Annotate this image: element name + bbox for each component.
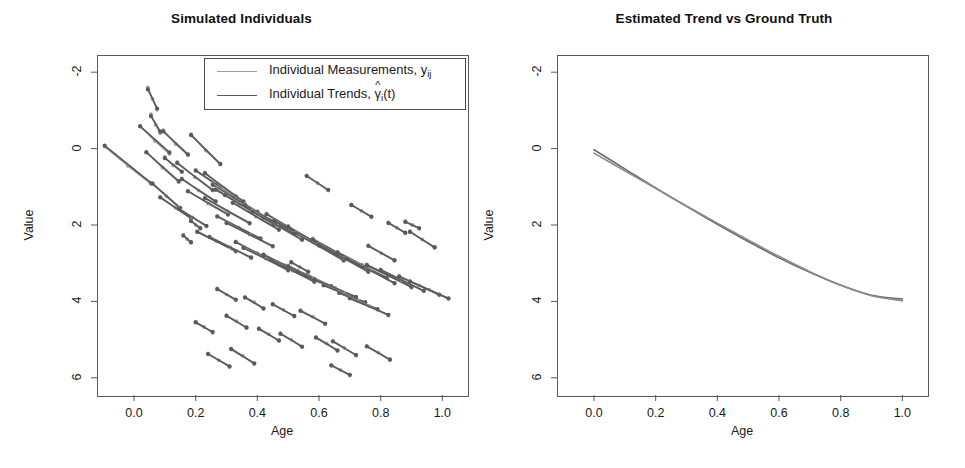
legend-sub-measurements: ij bbox=[427, 68, 431, 79]
right-x-tick-2: 0.4 bbox=[697, 406, 737, 420]
figure-canvas: Simulated Individuals 0.00.20.40.60.81.0… bbox=[0, 0, 965, 468]
panel-estimated-vs-truth: Estimated Trend vs Ground Truth 0.00.20.… bbox=[483, 0, 965, 468]
right-panel-title: Estimated Trend vs Ground Truth bbox=[483, 11, 965, 26]
right-x-tick-0: 0.0 bbox=[574, 406, 614, 420]
right-x-tick-1: 0.2 bbox=[636, 406, 676, 420]
legend-key-trends bbox=[217, 95, 257, 96]
left-y-tick-4: -2 bbox=[70, 58, 84, 84]
legend-text-trends: Individual Trends, bbox=[269, 86, 375, 101]
panel-simulated-individuals: Simulated Individuals 0.00.20.40.60.81.0… bbox=[0, 0, 483, 468]
legend-item-trends: Individual Trends, ^γi(t) bbox=[205, 83, 465, 107]
left-legend: Individual Measurements, yij Individual … bbox=[204, 58, 466, 110]
right-y-tick-3: 0 bbox=[530, 135, 544, 161]
right-y-tick-4: -2 bbox=[530, 58, 544, 84]
right-x-axis-title: Age bbox=[682, 424, 802, 438]
left-x-tick-0: 0.0 bbox=[114, 406, 154, 420]
left-x-tick-3: 0.6 bbox=[299, 406, 339, 420]
right-y-tick-0: 6 bbox=[530, 364, 544, 390]
legend-trends-arg: (t) bbox=[383, 86, 395, 101]
right-y-axis-title: Value bbox=[482, 185, 496, 265]
left-panel-title: Simulated Individuals bbox=[0, 11, 483, 26]
legend-label-measurements: Individual Measurements, yij bbox=[269, 63, 431, 78]
left-y-tick-1: 4 bbox=[70, 287, 84, 313]
right-x-tick-3: 0.6 bbox=[759, 406, 799, 420]
left-x-tick-1: 0.2 bbox=[176, 406, 216, 420]
left-x-tick-5: 1.0 bbox=[422, 406, 462, 420]
right-y-tick-2: 2 bbox=[530, 211, 544, 237]
legend-item-measurements: Individual Measurements, yij bbox=[205, 59, 465, 83]
right-plot-area bbox=[557, 55, 929, 397]
legend-text-measurements: Individual Measurements, y bbox=[269, 62, 427, 77]
left-y-tick-0: 6 bbox=[70, 364, 84, 390]
right-x-tick-4: 0.8 bbox=[821, 406, 861, 420]
left-x-axis-title: Age bbox=[222, 424, 342, 438]
left-y-tick-2: 2 bbox=[70, 211, 84, 237]
right-x-tick-5: 1.0 bbox=[882, 406, 922, 420]
hat-accent-icon: ^ bbox=[375, 80, 382, 91]
left-y-axis-title: Value bbox=[22, 185, 36, 265]
gamma-hat-symbol: ^γ bbox=[375, 87, 382, 100]
left-y-tick-3: 0 bbox=[70, 135, 84, 161]
left-x-tick-4: 0.8 bbox=[361, 406, 401, 420]
right-y-tick-1: 4 bbox=[530, 287, 544, 313]
legend-key-measurements bbox=[217, 71, 257, 72]
left-x-tick-2: 0.4 bbox=[237, 406, 277, 420]
legend-label-trends: Individual Trends, ^γi(t) bbox=[269, 87, 395, 102]
